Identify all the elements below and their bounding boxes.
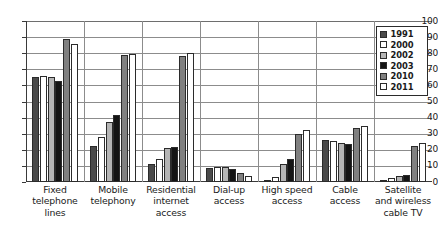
bar	[48, 77, 55, 182]
bar	[206, 168, 213, 182]
bar	[129, 54, 136, 182]
cat-label-line: access	[330, 195, 360, 206]
group-separator	[374, 21, 375, 182]
bar	[214, 167, 221, 182]
bar	[179, 56, 186, 182]
bar	[171, 147, 178, 182]
bar	[345, 144, 352, 182]
legend-label: 2002	[391, 51, 414, 59]
legend-label: 2003	[391, 62, 414, 70]
legend-swatch-icon	[380, 73, 387, 80]
bar-group	[200, 21, 258, 182]
cat-label-line: lines	[45, 207, 66, 218]
cat-label-line: access	[214, 195, 244, 206]
legend-swatch-icon	[380, 52, 387, 59]
bar	[361, 126, 368, 182]
cat-label-line: cable TV	[384, 207, 423, 218]
bar	[222, 167, 229, 182]
legend-item[interactable]: 2011	[380, 82, 424, 93]
bar-chart: 0102030405060708090100 Fixedtelephonelin…	[0, 0, 438, 244]
bar	[164, 148, 171, 182]
group-separator	[258, 21, 259, 182]
group-separator	[200, 21, 201, 182]
bar-group	[258, 21, 316, 182]
bar	[156, 159, 163, 182]
bar	[403, 175, 410, 182]
legend-label: 2011	[391, 83, 414, 91]
bar	[411, 146, 418, 182]
bar	[245, 176, 252, 182]
bar	[113, 115, 120, 182]
bar	[388, 178, 395, 182]
legend-swatch-icon	[380, 41, 387, 48]
legend-item[interactable]: 2002	[380, 50, 424, 61]
legend-label: 1991	[391, 30, 414, 38]
bar	[287, 159, 294, 182]
bar	[353, 128, 360, 182]
bar	[148, 164, 155, 182]
cat-label-line: access	[272, 195, 302, 206]
legend-item[interactable]: 2003	[380, 61, 424, 72]
cat-label-line: access	[156, 207, 186, 218]
bar	[380, 180, 387, 182]
bar	[187, 53, 194, 182]
bar	[330, 141, 337, 182]
legend-item[interactable]: 2000	[380, 40, 424, 51]
legend-label: 2000	[391, 41, 414, 49]
cat-label-line: internet	[153, 195, 189, 206]
cat-label-line: and wireless	[375, 195, 431, 206]
bar	[40, 76, 47, 182]
bar	[280, 164, 287, 182]
cat-label-line: Dial-up	[213, 184, 245, 195]
cat-label-line: Cable	[332, 184, 358, 195]
x-axis-category-labels: FixedtelephonelinesMobiletelephonyReside…	[26, 184, 432, 244]
group-separator	[84, 21, 85, 182]
bar	[264, 180, 271, 182]
cat-label-line: Mobile	[98, 184, 128, 195]
bar	[121, 55, 128, 182]
bar	[237, 173, 244, 182]
legend: 199120002002200320102011	[376, 26, 428, 96]
legend-swatch-icon	[380, 83, 387, 90]
cat-label-line: telephony	[90, 195, 135, 206]
bar	[63, 39, 70, 182]
bar	[303, 130, 310, 182]
bar	[322, 140, 329, 182]
bar	[90, 146, 97, 182]
bar-group	[142, 21, 200, 182]
cat-label-line: Fixed	[43, 184, 66, 195]
group-separator	[142, 21, 143, 182]
legend-swatch-icon	[380, 31, 387, 38]
cat-label-line: telephone	[32, 195, 77, 206]
bar	[106, 122, 113, 182]
bar	[229, 169, 236, 182]
bar	[98, 137, 105, 182]
bar	[272, 177, 279, 182]
legend-item[interactable]: 1991	[380, 29, 424, 40]
bar-group	[84, 21, 142, 182]
y-tick-mark-0	[22, 182, 26, 183]
group-separator	[316, 21, 317, 182]
bar-group	[316, 21, 374, 182]
bar-group	[26, 21, 84, 182]
bar	[55, 81, 62, 182]
legend-swatch-icon	[380, 62, 387, 69]
bar	[295, 134, 302, 182]
bar-groups-layer	[26, 21, 432, 182]
cat-label-line: Residential	[146, 184, 196, 195]
bar	[419, 143, 426, 182]
bar	[338, 143, 345, 182]
legend-label: 2010	[391, 72, 414, 80]
cat-label-line: Satellite	[385, 184, 422, 195]
category-label: Satelliteand wirelesscable TV	[368, 184, 438, 218]
bar	[396, 176, 403, 182]
cat-label-line: High speed	[262, 184, 313, 195]
bar	[32, 77, 39, 182]
legend-item[interactable]: 2010	[380, 71, 424, 82]
bar	[71, 44, 78, 182]
